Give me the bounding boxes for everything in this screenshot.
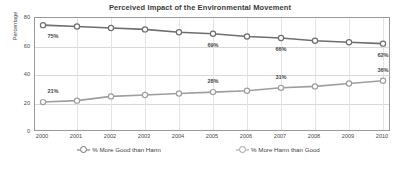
data-point-label: 66% bbox=[275, 46, 286, 52]
data-point bbox=[346, 40, 351, 45]
data-point bbox=[176, 30, 181, 35]
circle-marker-icon bbox=[80, 146, 87, 153]
x-tick-label: 2010 bbox=[376, 133, 388, 139]
data-point bbox=[346, 81, 351, 86]
series-plot bbox=[35, 18, 391, 132]
x-tick-label: 2009 bbox=[342, 133, 354, 139]
legend-label: % More Harm than Good bbox=[251, 146, 320, 153]
data-point bbox=[278, 35, 283, 40]
data-point-label: 75% bbox=[47, 33, 58, 39]
circle-marker-icon bbox=[239, 146, 246, 153]
data-point bbox=[244, 34, 249, 39]
data-point bbox=[142, 27, 147, 32]
data-point bbox=[142, 92, 147, 97]
data-point-label: 28% bbox=[207, 78, 218, 84]
data-point bbox=[74, 24, 79, 29]
data-point-label: 21% bbox=[47, 88, 58, 94]
data-point bbox=[312, 38, 317, 43]
legend-item-more-harm-than-good[interactable]: % More Harm than Good bbox=[239, 146, 320, 153]
y-tick-label: 80 bbox=[4, 14, 30, 20]
data-point bbox=[380, 78, 385, 83]
data-point-label: 31% bbox=[275, 74, 286, 80]
data-point bbox=[108, 25, 113, 30]
chart-legend: % More Good than Harm% More Harm than Go… bbox=[0, 146, 400, 153]
x-tick-label: 2004 bbox=[172, 133, 184, 139]
y-tick-label: 60 bbox=[4, 43, 30, 49]
x-tick-label: 2007 bbox=[274, 133, 286, 139]
x-tick-label: 2006 bbox=[240, 133, 252, 139]
y-tick-label: 40 bbox=[4, 71, 30, 77]
data-point bbox=[40, 99, 45, 104]
x-tick-label: 2003 bbox=[138, 133, 150, 139]
data-point bbox=[74, 98, 79, 103]
x-tick-label: 2005 bbox=[206, 133, 218, 139]
data-point-label: 62% bbox=[377, 52, 388, 58]
data-point bbox=[380, 41, 385, 46]
data-point bbox=[40, 23, 45, 28]
plot-area: 75%69%66%62%21%28%31%36% bbox=[34, 17, 390, 131]
y-tick-label: 20 bbox=[4, 100, 30, 106]
data-point bbox=[278, 85, 283, 90]
chart-title: Perceived Impact of the Environmental Mo… bbox=[0, 3, 400, 12]
data-point-label: 69% bbox=[207, 42, 218, 48]
data-point bbox=[176, 91, 181, 96]
x-tick-label: 2001 bbox=[70, 133, 82, 139]
legend-item-more-good-than-harm[interactable]: % More Good than Harm bbox=[80, 146, 161, 153]
line-chart: Perceived Impact of the Environmental Mo… bbox=[0, 0, 400, 170]
x-tick-label: 2008 bbox=[308, 133, 320, 139]
data-point bbox=[210, 90, 215, 95]
y-tick-label: 0 bbox=[4, 128, 30, 134]
legend-label: % More Good than Harm bbox=[92, 146, 161, 153]
x-tick-label: 2002 bbox=[104, 133, 116, 139]
data-point-label: 36% bbox=[377, 67, 388, 73]
data-point bbox=[244, 88, 249, 93]
x-tick-label: 2000 bbox=[36, 133, 48, 139]
data-point bbox=[312, 84, 317, 89]
data-point bbox=[108, 94, 113, 99]
data-point bbox=[210, 31, 215, 36]
